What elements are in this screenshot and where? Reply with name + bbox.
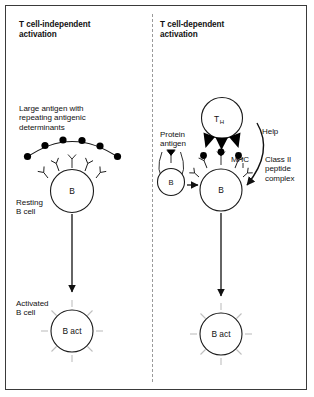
resting-b-cell-caption: Resting B cell xyxy=(16,198,76,217)
class-ii-peptide-complex-caption: Class II peptide complex xyxy=(265,155,311,183)
b-cell-activation-figure: T cell-independent activation T cell-dep… xyxy=(0,0,314,397)
mhc-caption: MHC xyxy=(231,155,259,164)
help-caption: Help xyxy=(262,127,292,136)
large-antigen-caption: Large antigen with repeating antigenic d… xyxy=(19,104,147,132)
protein-antigen-caption: Protein antigen xyxy=(160,130,200,149)
left-panel-title: T cell-independent activation xyxy=(19,20,144,39)
panel-divider xyxy=(152,14,153,382)
right-panel-title: T cell-dependent activation xyxy=(160,20,290,39)
activated-b-cell-caption: Activated B cell xyxy=(16,299,78,318)
